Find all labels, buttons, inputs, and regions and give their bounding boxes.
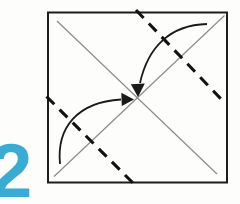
fold-arrowhead-top-right-icon [131,84,145,97]
fold-arrowhead-bottom-left-icon [121,93,134,106]
step-number-label: 2 [0,128,32,204]
fold-arrow-bottom-left [60,100,121,165]
crease-diagonal-tr-bl [54,16,225,177]
origami-diagram: 2 [0,0,240,204]
fold-arrow-top-right [140,24,207,83]
fold-line-top-right [136,10,222,100]
origami-step-panel: 2 [0,0,240,204]
fold-line-bottom-left [47,97,134,184]
